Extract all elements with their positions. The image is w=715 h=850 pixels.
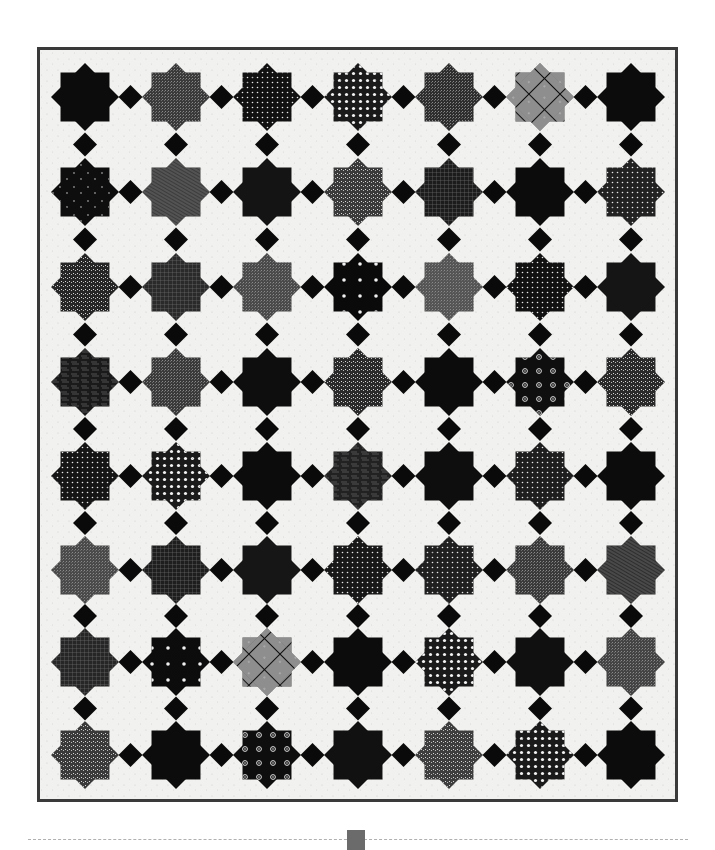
star-block: [597, 63, 665, 131]
star-block: [51, 158, 119, 226]
star-block: [233, 158, 301, 226]
star-block: [415, 158, 483, 226]
star-block: [142, 721, 210, 789]
star-block: [233, 536, 301, 604]
star-block: [51, 536, 119, 604]
star-block: [142, 628, 210, 696]
star-block: [506, 442, 574, 510]
star-block: [506, 721, 574, 789]
star-block: [324, 253, 392, 321]
star-block: [506, 628, 574, 696]
star-block: [324, 721, 392, 789]
star-block: [597, 628, 665, 696]
star-block: [415, 536, 483, 604]
star-block: [415, 253, 483, 321]
star-block: [506, 536, 574, 604]
star-block: [506, 348, 574, 416]
star-block: [51, 628, 119, 696]
page-number-tab: [347, 830, 365, 850]
star-block: [597, 348, 665, 416]
star-block: [233, 348, 301, 416]
star-block: [51, 63, 119, 131]
star-block: [597, 442, 665, 510]
star-block: [51, 348, 119, 416]
star-block: [415, 348, 483, 416]
star-block: [324, 442, 392, 510]
star-block: [324, 536, 392, 604]
star-block: [415, 628, 483, 696]
star-block: [233, 442, 301, 510]
star-block: [324, 348, 392, 416]
star-block: [415, 442, 483, 510]
star-block: [415, 63, 483, 131]
star-block: [233, 628, 301, 696]
star-block: [597, 158, 665, 226]
star-block: [51, 253, 119, 321]
star-block: [233, 721, 301, 789]
star-block: [142, 63, 210, 131]
star-block: [506, 253, 574, 321]
star-block: [597, 536, 665, 604]
star-block: [142, 158, 210, 226]
star-block: [142, 253, 210, 321]
star-block: [324, 158, 392, 226]
star-block: [142, 442, 210, 510]
star-block: [233, 253, 301, 321]
star-block: [415, 721, 483, 789]
star-block: [597, 253, 665, 321]
star-block: [51, 442, 119, 510]
star-block: [142, 536, 210, 604]
star-block: [506, 63, 574, 131]
star-block: [233, 63, 301, 131]
star-block: [597, 721, 665, 789]
quilt-pattern: [0, 0, 715, 850]
star-block: [324, 628, 392, 696]
star-block: [142, 348, 210, 416]
star-block: [506, 158, 574, 226]
star-block: [51, 721, 119, 789]
star-block: [324, 63, 392, 131]
